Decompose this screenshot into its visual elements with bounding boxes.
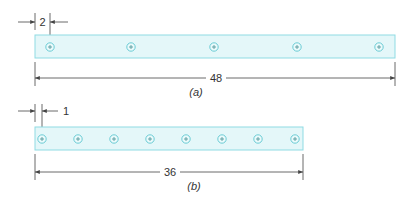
caption-b: (b) <box>187 180 201 192</box>
hole-icon <box>293 43 301 51</box>
hole-icon <box>254 135 262 143</box>
hole-icon <box>46 43 54 51</box>
offset-label-a: 2 <box>39 16 45 28</box>
offset-label-b: 1 <box>63 105 69 117</box>
hole-icon <box>127 43 135 51</box>
hole-icon <box>74 135 82 143</box>
hole-strip-diagram: 2 48 (a) 1 <box>0 0 409 203</box>
hole-icon <box>375 43 383 51</box>
hole-icon <box>38 135 46 143</box>
length-dimension-b: 36 <box>35 154 303 180</box>
hole-icon <box>291 135 299 143</box>
hole-icon <box>182 135 190 143</box>
panel-a: 2 48 (a) <box>18 13 395 98</box>
hole-icon <box>218 135 226 143</box>
hole-icon <box>146 135 154 143</box>
length-label-a: 48 <box>210 72 222 84</box>
panel-b: 1 36 (b) <box>18 104 303 192</box>
hole-icon <box>110 135 118 143</box>
caption-a: (a) <box>189 86 203 98</box>
hole-icon <box>210 43 218 51</box>
length-label-b: 36 <box>164 166 176 178</box>
length-dimension-a: 48 <box>35 62 395 86</box>
